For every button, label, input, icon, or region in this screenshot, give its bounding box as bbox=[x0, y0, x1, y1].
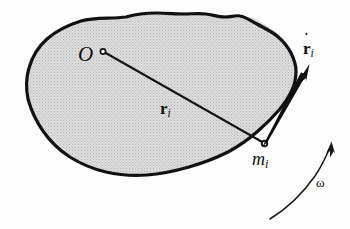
origin-point-marker bbox=[100, 49, 105, 54]
angular-velocity-arrowhead bbox=[326, 142, 335, 158]
label-velocity-vector-main-group: r bbox=[303, 40, 311, 57]
label-mass-point-subscript: i bbox=[265, 157, 268, 171]
diagram-svg bbox=[0, 0, 350, 229]
label-position-vector-subscript: i bbox=[168, 107, 171, 120]
label-velocity-vector-r-dot-i: ri bbox=[303, 40, 314, 59]
label-velocity-vector-subscript: i bbox=[311, 47, 314, 60]
label-angular-velocity-omega: ω bbox=[316, 176, 325, 189]
angular-velocity-arrow bbox=[270, 142, 335, 220]
label-origin-O: O bbox=[78, 44, 93, 65]
label-mass-point-m-i: mi bbox=[252, 150, 268, 170]
label-position-vector-main: r bbox=[160, 99, 168, 118]
label-mass-point-main: m bbox=[252, 149, 265, 169]
overdot-icon bbox=[305, 33, 308, 36]
label-velocity-vector-main: r bbox=[303, 39, 311, 58]
figure-canvas: O ri ri mi ω bbox=[0, 0, 350, 229]
label-position-vector-r-i: ri bbox=[160, 100, 171, 119]
